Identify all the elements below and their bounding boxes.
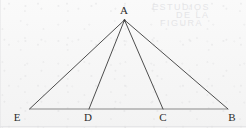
vertex-label-C: C xyxy=(159,112,166,123)
segment-AD xyxy=(89,20,125,109)
vertex-label-B: B xyxy=(228,112,235,123)
geometry-figure-canvas: ESTUDIOS DE LA FIGURA A E D C B xyxy=(0,0,246,128)
segment-AC xyxy=(125,20,164,109)
triangle-diagram-svg xyxy=(0,0,246,128)
vertex-label-E: E xyxy=(14,112,21,123)
segment-AE xyxy=(30,20,125,109)
vertex-label-D: D xyxy=(84,112,92,123)
vertex-point-A xyxy=(123,19,125,21)
segment-AB xyxy=(125,20,229,109)
vertex-label-A: A xyxy=(120,5,128,16)
